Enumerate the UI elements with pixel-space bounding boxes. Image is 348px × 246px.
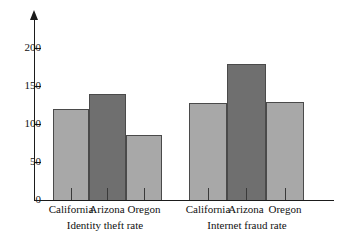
bar-fraud-oregon[interactable] (266, 102, 304, 201)
bar-chart: 200 150 100 50 0 (0, 0, 348, 246)
cat-tick-fraud-california (208, 188, 209, 200)
chart-page: 200 150 100 50 0 (0, 0, 348, 246)
bars-layer (0, 0, 348, 201)
x-label-identity-oregon: Oregon (119, 203, 169, 216)
cat-tick-identity-california (71, 188, 72, 200)
x-axis-line (34, 200, 334, 201)
cat-tick-fraud-oregon (285, 188, 286, 200)
x-label-fraud-oregon: Oregon (260, 203, 310, 216)
cat-tick-identity-arizona (107, 188, 108, 200)
bar-fraud-california[interactable] (189, 103, 227, 201)
group-label-identity-theft-rate: Identity theft rate (45, 219, 165, 232)
cat-tick-fraud-arizona (246, 188, 247, 200)
cat-tick-identity-oregon (144, 188, 145, 200)
group-label-internet-fraud-rate: Internet fraud rate (185, 219, 309, 232)
bar-fraud-arizona[interactable] (227, 64, 266, 201)
bar-identity-arizona[interactable] (89, 94, 126, 201)
